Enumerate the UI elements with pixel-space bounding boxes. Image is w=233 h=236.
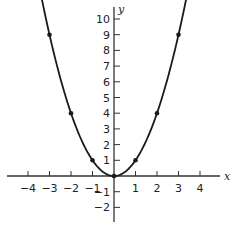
- y-tick-label: 10: [96, 13, 110, 26]
- y-tick-label: 6: [103, 76, 110, 89]
- y-tick-label: 2: [103, 139, 110, 152]
- data-point: [176, 32, 181, 37]
- x-tick-label: 2: [154, 182, 161, 195]
- data-point: [47, 32, 52, 37]
- y-tick-label: −1: [94, 186, 110, 199]
- x-tick-label: 3: [175, 182, 182, 195]
- y-tick-label: 8: [103, 44, 110, 57]
- parabola-chart: −4−3−2−11234−2−112345678910xy: [0, 0, 233, 236]
- y-tick-label: 3: [103, 123, 110, 136]
- data-point: [90, 158, 95, 163]
- x-tick-label: −2: [63, 182, 79, 195]
- x-tick-label: 4: [197, 182, 204, 195]
- data-point: [155, 111, 160, 116]
- data-point: [112, 174, 117, 179]
- y-tick-label: 1: [103, 154, 110, 167]
- data-point: [69, 111, 74, 116]
- y-tick-label: 7: [103, 60, 110, 73]
- y-axis-label: y: [117, 3, 125, 16]
- y-tick-label: 4: [103, 107, 110, 120]
- y-tick-label: 9: [103, 29, 110, 42]
- x-tick-label: 1: [132, 182, 139, 195]
- x-axis-label: x: [224, 170, 231, 183]
- data-point: [133, 158, 138, 163]
- y-tick-label: 5: [103, 92, 110, 105]
- x-tick-label: −4: [20, 182, 36, 195]
- axes: [7, 7, 220, 222]
- x-tick-label: −3: [41, 182, 57, 195]
- y-tick-label: −2: [94, 201, 110, 214]
